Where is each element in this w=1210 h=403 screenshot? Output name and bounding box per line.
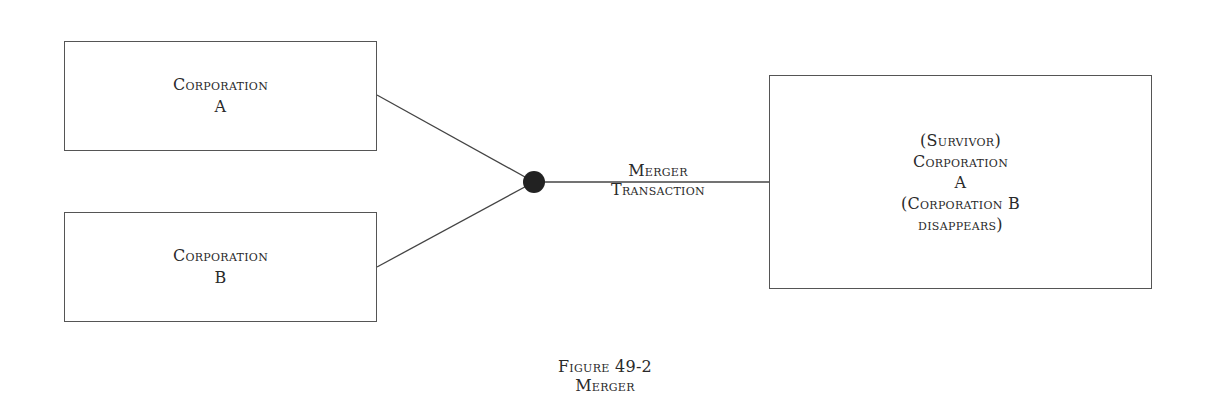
survivor-line3: A (955, 172, 967, 193)
corporation-a-line2: A (215, 96, 227, 118)
caption-figure-number: Figure 49-2 (505, 357, 705, 376)
survivor-line1: (Survivor) (920, 130, 1001, 151)
corporation-b-line2: B (214, 267, 226, 289)
figure-caption: Figure 49-2 Merger (505, 357, 705, 395)
edge-label-line1: Merger (578, 161, 738, 180)
corporation-b-box: Corporation B (64, 212, 377, 322)
corporation-a-line1: Corporation (173, 74, 268, 96)
corporation-a-box: Corporation A (64, 41, 377, 151)
line-a-to-junction (377, 95, 534, 182)
caption-title: Merger (505, 376, 705, 395)
survivor-line5: disappears) (918, 214, 1003, 235)
survivor-line2: Corporation (913, 151, 1008, 172)
survivor-corporation-box: (Survivor) Corporation A (Corporation B … (769, 75, 1152, 289)
junction-dot (523, 171, 545, 193)
corporation-b-line1: Corporation (173, 245, 268, 267)
merger-transaction-label: Merger Transaction (578, 161, 738, 199)
survivor-line4: (Corporation B (901, 193, 1020, 214)
edge-label-line2: Transaction (578, 180, 738, 199)
line-b-to-junction (377, 182, 534, 267)
